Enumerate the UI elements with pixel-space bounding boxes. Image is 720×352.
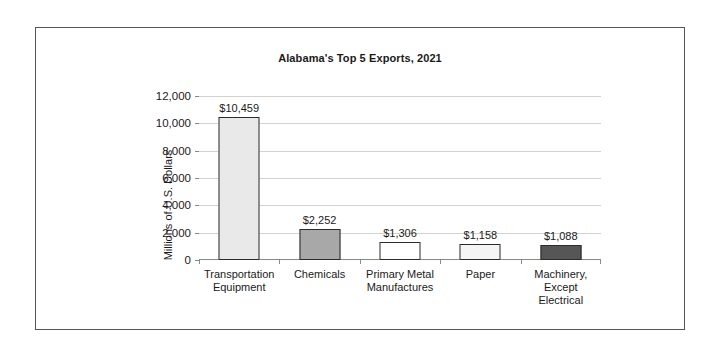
bar-group: $1,088Machinery,ExceptElectrical	[521, 96, 601, 260]
chart-card: Alabama's Top 5 Exports, 2021 Millions o…	[35, 27, 685, 330]
bar[interactable]	[460, 244, 501, 260]
bar-value-label: $1,306	[383, 227, 417, 239]
y-tick-label: 0	[185, 254, 191, 266]
y-tick-label: 2,000	[162, 227, 191, 239]
y-tick-label: 8,000	[162, 145, 191, 157]
bar-group: $1,158Paper	[440, 96, 520, 260]
bar[interactable]	[379, 242, 420, 260]
plot-area: 02,0004,0006,0008,00010,00012,000 $10,45…	[199, 96, 601, 260]
bar-value-label: $1,088	[544, 230, 578, 242]
x-tick-mark	[360, 260, 361, 264]
bar[interactable]	[299, 229, 340, 260]
bar-value-label: $10,459	[219, 102, 259, 114]
bar-value-label: $1,158	[464, 229, 498, 241]
x-tick-mark	[600, 260, 601, 264]
bar-group: $1,306Primary MetalManufactures	[360, 96, 440, 260]
y-tick-label: 6,000	[162, 172, 191, 184]
x-category-label-line: Electrical	[509, 294, 613, 307]
y-tick-label: 4,000	[162, 199, 191, 211]
bar[interactable]	[540, 245, 581, 260]
y-tick-label: 12,000	[156, 90, 191, 102]
x-tick-mark	[440, 260, 441, 264]
bar-value-label: $2,252	[303, 214, 337, 226]
x-category-label-line: Except	[509, 281, 613, 294]
x-category-label: Machinery,ExceptElectrical	[509, 268, 613, 307]
x-tick-mark	[199, 260, 200, 264]
bar-group: $2,252Chemicals	[279, 96, 359, 260]
x-category-label-line: Manufactures	[348, 281, 452, 294]
bar[interactable]	[219, 117, 260, 260]
bar-group: $10,459TransportationEquipment	[199, 96, 279, 260]
y-axis-title: Millions of U.S. Dollars	[162, 0, 178, 123]
y-tick-label: 10,000	[156, 117, 191, 129]
x-category-label-line: Machinery,	[509, 268, 613, 281]
chart-title: Alabama's Top 5 Exports, 2021	[36, 52, 684, 64]
x-tick-mark	[279, 260, 280, 264]
x-tick-mark	[521, 260, 522, 264]
x-category-label-line: Equipment	[187, 281, 291, 294]
